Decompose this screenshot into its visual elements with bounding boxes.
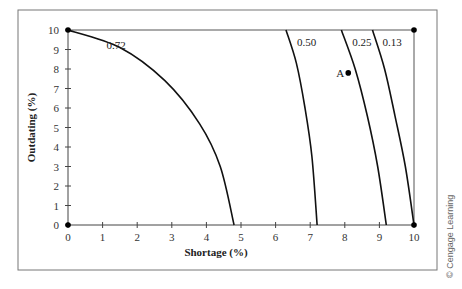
- x-tick-label: 4: [204, 231, 210, 243]
- point-label: A: [336, 67, 344, 79]
- x-tick-label: 3: [169, 231, 175, 243]
- curve-label: 0.72: [107, 39, 126, 51]
- plot-area: 012345678910012345678910Shortage (%)Outd…: [25, 24, 420, 259]
- curve-label: 0.25: [352, 36, 372, 48]
- curve-0_72: [68, 30, 234, 225]
- corner-point: [411, 222, 417, 228]
- y-tick-label: 3: [54, 161, 60, 173]
- x-tick-label: 0: [65, 231, 71, 243]
- y-tick-label: 4: [54, 141, 60, 153]
- y-tick-label: 7: [54, 83, 60, 95]
- y-tick-label: 10: [48, 24, 60, 36]
- chart: 012345678910012345678910Shortage (%)Outd…: [0, 0, 462, 289]
- y-tick-label: 5: [54, 122, 60, 134]
- corner-point: [411, 27, 417, 33]
- x-tick-label: 8: [342, 231, 348, 243]
- chart-frame: [18, 10, 437, 270]
- x-tick-label: 9: [377, 231, 383, 243]
- copyright-credit: © Cengage Learning: [440, 150, 460, 280]
- x-tick-label: 2: [134, 231, 140, 243]
- y-tick-label: 0: [54, 219, 60, 231]
- x-axis-label: Shortage (%): [184, 246, 248, 259]
- x-tick-label: 5: [238, 231, 244, 243]
- curve-0_50: [286, 30, 317, 225]
- y-axis-label: Outdating (%): [25, 92, 38, 162]
- point-A: [345, 70, 351, 76]
- y-tick-label: 9: [54, 44, 60, 56]
- corner-point: [65, 222, 71, 228]
- y-tick-label: 6: [54, 102, 60, 114]
- x-tick-label: 7: [307, 231, 313, 243]
- y-tick-label: 2: [54, 180, 60, 192]
- y-tick-label: 8: [54, 63, 60, 75]
- curve-0_25: [341, 30, 386, 225]
- y-tick-label: 1: [54, 200, 60, 212]
- x-tick-label: 1: [100, 231, 106, 243]
- x-tick-label: 6: [273, 231, 279, 243]
- corner-point: [65, 27, 71, 33]
- curve-0_13: [372, 30, 414, 225]
- curve-label: 0.50: [297, 36, 317, 48]
- credit-text: © Cengage Learning: [445, 195, 455, 278]
- x-tick-label: 10: [409, 231, 421, 243]
- curve-label: 0.13: [382, 36, 402, 48]
